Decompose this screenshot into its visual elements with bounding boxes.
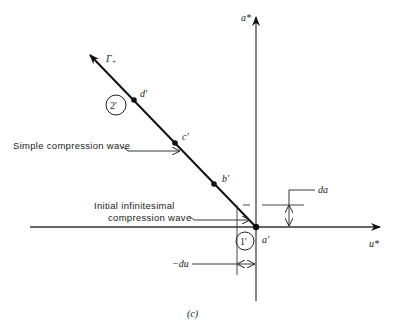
svg-text:1': 1'	[240, 236, 247, 247]
diagram-canvas: u* a* Γ+ a' b' c' d' 2' 1' Simple compre…	[0, 0, 395, 331]
point-b-prime-label: b'	[222, 173, 230, 184]
point-d-prime	[131, 97, 137, 103]
a-star-axis-label: a*	[241, 12, 251, 23]
point-a-prime	[253, 224, 259, 230]
simple-compression-wave-label: Simple compression wave	[13, 140, 130, 151]
point-b-prime	[211, 181, 217, 187]
u-star-axis-label: u*	[369, 238, 379, 249]
point-a-prime-label: a'	[262, 234, 270, 245]
point-c-prime	[172, 140, 178, 146]
neg-du-label: −du	[172, 258, 189, 269]
initial-wave-leader	[189, 216, 250, 220]
initial-wave-label-line2: compression wave	[108, 212, 191, 223]
point-d-prime-label: d'	[140, 88, 148, 99]
region-2-prime: 2'	[106, 95, 126, 115]
gamma-plus-label: Γ+	[105, 53, 117, 66]
simple-wave-leader	[123, 147, 180, 151]
region-1-prime: 1'	[236, 232, 254, 250]
da-label: da	[318, 184, 328, 195]
initial-wave-label-line1: Initial infinitesimal	[94, 200, 175, 211]
svg-text:2': 2'	[110, 100, 117, 111]
point-c-prime-label: c'	[182, 131, 189, 142]
figure-caption: (c)	[187, 308, 199, 320]
